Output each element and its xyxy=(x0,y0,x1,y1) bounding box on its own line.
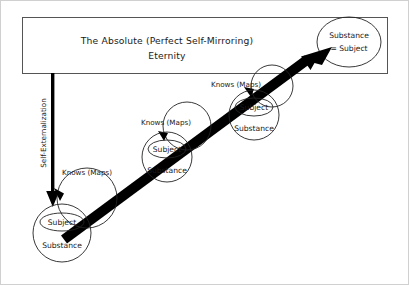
node-middle-subject-label: Subject xyxy=(153,145,181,154)
self-externalization-arrow xyxy=(46,73,59,207)
node-middle-substance-label: Substance xyxy=(147,166,187,175)
top-node-line2: = Subject xyxy=(330,44,367,53)
node-bottom-left-substance-label: Substance xyxy=(42,241,82,250)
node-bottom-left-subject-label: Subject xyxy=(48,218,76,227)
node-upper-right-subject-label: Subject xyxy=(240,103,268,112)
absolute-title-line1: The Absolute (Perfect Self-Mirroring) xyxy=(80,35,253,46)
diagram-svg: The Absolute (Perfect Self-Mirroring) Et… xyxy=(1,1,409,285)
node-upper-right-loop-label: Knows (Maps) xyxy=(211,80,261,89)
node-middle-loop-label: Knows (Maps) xyxy=(141,118,191,127)
absolute-title-line2: Eternity xyxy=(148,50,186,61)
top-node-line1: Substance xyxy=(329,31,369,40)
ascending-arrow xyxy=(61,47,332,244)
top-node-ellipse xyxy=(317,17,381,67)
node-bottom-left-loop-label: Knows (Maps) xyxy=(62,168,112,177)
diagram-canvas: The Absolute (Perfect Self-Mirroring) Et… xyxy=(0,0,409,285)
node-upper-right-substance-label: Substance xyxy=(234,124,274,133)
self-externalization-label: Self-Externalization xyxy=(39,98,48,167)
